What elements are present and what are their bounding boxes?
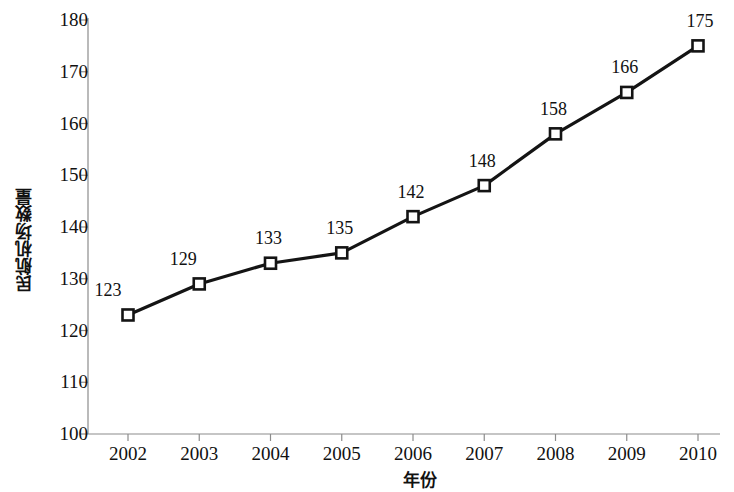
x-tick-label: 2004	[236, 444, 306, 463]
data-point-label: 123	[78, 281, 138, 299]
x-tick-label: 2006	[378, 444, 448, 463]
data-point-marker	[123, 309, 134, 320]
y-tick-label: 110	[38, 372, 88, 391]
y-tick-label: 160	[38, 114, 88, 133]
y-tick-label: 100	[38, 424, 88, 443]
data-point-label: 129	[153, 250, 213, 268]
y-tick-label: 170	[38, 62, 88, 81]
data-point-marker	[621, 87, 632, 98]
y-tick-label: 140	[38, 217, 88, 236]
axis-tick-marks	[81, 20, 698, 441]
axis-lines	[88, 18, 720, 434]
data-point-marker	[194, 278, 205, 289]
y-axis-title: 民航机场数量	[10, 145, 38, 335]
data-point-marker	[336, 247, 347, 258]
y-tick-label: 120	[38, 321, 88, 340]
x-tick-label: 2008	[521, 444, 591, 463]
data-point-markers	[123, 40, 704, 320]
line-chart: 民航机场数量 年份 100110120130140150160170180 20…	[0, 0, 734, 492]
x-axis-title: 年份	[0, 466, 734, 491]
data-point-label: 148	[452, 152, 512, 170]
data-point-label: 133	[239, 229, 299, 247]
data-point-label: 175	[670, 12, 730, 30]
data-point-label: 142	[381, 183, 441, 201]
data-point-marker	[408, 211, 419, 222]
x-tick-label: 2005	[307, 444, 377, 463]
data-point-marker	[693, 40, 704, 51]
y-tick-label: 180	[38, 10, 88, 29]
data-point-marker	[550, 128, 561, 139]
y-tick-label: 150	[38, 165, 88, 184]
data-point-marker	[479, 180, 490, 191]
x-tick-label: 2010	[663, 444, 733, 463]
x-tick-label: 2007	[449, 444, 519, 463]
x-tick-label: 2003	[164, 444, 234, 463]
data-point-marker	[265, 258, 276, 269]
data-point-label: 166	[595, 58, 655, 76]
x-tick-label: 2009	[592, 444, 662, 463]
data-line	[128, 46, 698, 315]
x-tick-label: 2002	[93, 444, 163, 463]
data-point-label: 158	[524, 100, 584, 118]
data-point-label: 135	[310, 219, 370, 237]
